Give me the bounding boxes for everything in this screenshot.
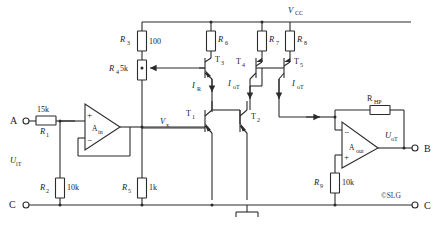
output-feed: [279, 112, 337, 119]
t3-label: T: [215, 55, 220, 64]
resistor-r2: R 2 10k: [39, 178, 79, 205]
r9-value: 10k: [342, 178, 354, 187]
resistor-r7: R 7: [258, 22, 280, 58]
a-in-sublabel: in: [98, 129, 103, 135]
r5-value: 1k: [149, 183, 157, 192]
node-a-branch: U iT: [10, 120, 62, 179]
t2-sublabel: 2: [257, 117, 260, 123]
circuit-diagram: V CC R 3 100 R 4 5k R 6 R 7: [0, 0, 442, 226]
current-ir: I R: [191, 79, 212, 92]
terminal-c-left-label: C: [9, 199, 16, 210]
r6-sublabel: 6: [225, 40, 228, 46]
r7-sublabel: 7: [276, 40, 279, 46]
r9-label: R: [313, 177, 320, 187]
uot-sublabel: oT: [391, 136, 398, 142]
a-out-sublabel: out: [356, 148, 364, 154]
r3-label: R: [119, 34, 126, 44]
terminal-b-label: B: [424, 143, 431, 154]
r1-sublabel: 1: [46, 132, 49, 138]
t1-sublabel: 1: [192, 114, 195, 120]
resistor-r4-potentiometer: R 4 5k: [108, 60, 205, 190]
terminal-a-label: A: [10, 115, 18, 126]
iot-left-label: I: [227, 78, 232, 88]
t5-sublabel: 5: [300, 62, 303, 68]
r3-sublabel: 3: [127, 40, 130, 46]
a-in-plus-sign: +: [87, 110, 92, 120]
terminal-b: B: [412, 143, 431, 154]
r8-sublabel: 8: [304, 40, 307, 46]
r2-value: 10k: [67, 183, 79, 192]
resistor-r5: R 5 1k: [121, 178, 157, 205]
r4-wiper-node: [141, 67, 144, 70]
watermark: ©SLG: [381, 191, 401, 200]
input-terminal-a: A: [10, 115, 36, 126]
node-vx: V x: [141, 116, 206, 129]
ir-sublabel: R: [197, 86, 201, 92]
emitter-rail: [212, 148, 247, 200]
current-iot-right: I oT: [279, 78, 304, 99]
a-out-label: A: [349, 143, 355, 152]
iot-right-sublabel: oT: [297, 84, 304, 90]
t4-label: T: [236, 57, 241, 66]
r3-value: 100: [149, 37, 161, 46]
opamp-a-out: − + A out: [335, 117, 412, 168]
resistor-r8: R 8: [286, 22, 308, 58]
ir-label: I: [191, 80, 196, 90]
rhp-label: R: [367, 94, 373, 103]
t5-label: T: [294, 57, 299, 66]
r7-label: R: [268, 34, 275, 44]
opamp-a-in: + − A in: [60, 104, 142, 156]
vcc-sublabel: CC: [295, 10, 303, 16]
supply-rail: V CC: [142, 5, 411, 22]
a-in-minus-sign: −: [87, 135, 92, 145]
ground-rail: [26, 204, 412, 207]
current-iot-left: I oT: [227, 78, 250, 99]
terminal-c-right: C: [412, 200, 431, 211]
r4-value: 5k: [120, 64, 128, 73]
t3-sublabel: 3: [221, 60, 224, 66]
resistor-r9: R 9 10k: [313, 162, 354, 205]
r4-label: R: [108, 63, 115, 73]
resistor-r3: R 3 100: [119, 22, 161, 60]
resistor-r6: R 6: [207, 22, 229, 58]
output-voltage-label: U oT: [385, 130, 398, 142]
vcc-label: V: [288, 5, 295, 15]
r8-label: R: [296, 34, 303, 44]
r6-label: R: [217, 34, 224, 44]
rhp-sublabel: HP: [374, 99, 382, 105]
r5-label: R: [121, 182, 128, 192]
r1-value: 15k: [37, 105, 49, 114]
ground-symbol: [236, 205, 258, 217]
r1-label: R: [39, 126, 46, 136]
r4-sublabel: 4: [116, 69, 119, 75]
t1-label: T: [186, 109, 191, 118]
transistor-t1: T 1: [142, 101, 240, 148]
r2-sublabel: 2: [46, 188, 49, 194]
a-out-plus-sign: +: [344, 152, 349, 162]
t2-label: T: [251, 112, 256, 121]
r2-label: R: [39, 182, 46, 192]
iot-right-label: I: [291, 78, 296, 88]
r9-sublabel: 9: [320, 183, 323, 189]
transistor-t4: T 4: [236, 57, 263, 110]
terminal-c-left: C: [9, 199, 29, 210]
t4-sublabel: 4: [242, 62, 245, 68]
iot-left-sublabel: oT: [233, 84, 240, 90]
uit-sublabel: iT: [16, 161, 22, 167]
terminal-c-right-label: C: [424, 200, 431, 211]
vx-sublabel: x: [166, 122, 169, 128]
r5-sublabel: 5: [128, 188, 131, 194]
a-out-minus-sign: −: [344, 127, 349, 137]
